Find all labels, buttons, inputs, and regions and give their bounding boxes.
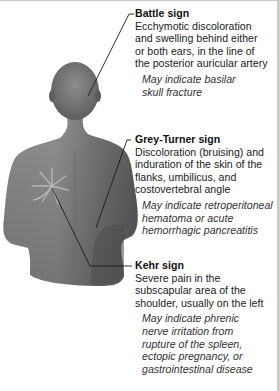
note-line: nerve irritation from: [142, 325, 263, 338]
callout-battle-sign: Battle sign Ecchymotic discoloration and…: [135, 7, 267, 98]
note-line: hemorrhagic pancreatitis: [142, 224, 273, 237]
callout-note: May indicate phrenic nerve irritation fr…: [142, 312, 263, 375]
note-line: gastrointestinal disease: [142, 363, 263, 376]
description-line: shoulder, usually on the left: [135, 297, 263, 310]
description-line: the posterior auricular artery: [135, 57, 267, 70]
note-line: rupture of the spleen,: [142, 338, 263, 351]
note-line: May indicate phrenic: [142, 312, 263, 325]
callout-description: Ecchymotic discoloration and swelling be…: [135, 20, 267, 70]
callout-description: Severe pain in the subscapular area of t…: [135, 272, 263, 310]
note-line: May indicate basilar: [142, 73, 267, 86]
description-line: subscapular area of the: [135, 284, 263, 297]
description-line: and swelling behind either: [135, 32, 267, 45]
description-line: or both ears, in the line of: [135, 45, 267, 58]
callout-title: Battle sign: [135, 7, 267, 20]
torso: [3, 114, 138, 286]
callout-grey-turner-sign: Grey-Turner sign Discoloration (bruising…: [135, 133, 273, 237]
note-line: skull fracture: [142, 86, 267, 99]
description-line: Severe pain in the: [135, 272, 263, 285]
description-line: costovertebral angle: [135, 183, 273, 196]
callout-note: May indicate retroperitoneal hematoma or…: [142, 199, 273, 237]
callout-description: Discoloration (bruising) and induration …: [135, 146, 273, 196]
description-line: Discoloration (bruising) and: [135, 146, 273, 159]
callout-kehr-sign: Kehr sign Severe pain in the subscapular…: [135, 259, 263, 375]
description-line: Ecchymotic discoloration: [135, 20, 267, 33]
description-line: induration of the skin of the: [135, 158, 273, 171]
description-line: flanks, umbilicus, and: [135, 171, 273, 184]
callout-title: Kehr sign: [135, 259, 263, 272]
note-line: ectopic pregnancy, or: [142, 350, 263, 363]
callout-title: Grey-Turner sign: [135, 133, 273, 146]
note-line: May indicate retroperitoneal: [142, 199, 273, 212]
callout-note: May indicate basilar skull fracture: [142, 73, 267, 98]
note-line: hematoma or acute: [142, 212, 273, 225]
head: [49, 62, 101, 120]
